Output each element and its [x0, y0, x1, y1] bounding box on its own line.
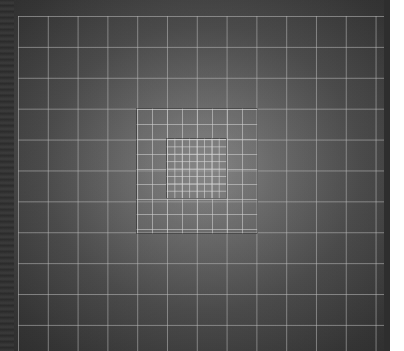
left-edge-strip — [0, 0, 14, 351]
right-margin — [390, 0, 404, 351]
grid-texture-image — [0, 0, 390, 351]
inner-fine-grid — [166, 138, 227, 199]
middle-grid — [136, 108, 258, 234]
texture-noise — [0, 0, 390, 351]
outer-grid — [18, 16, 390, 351]
